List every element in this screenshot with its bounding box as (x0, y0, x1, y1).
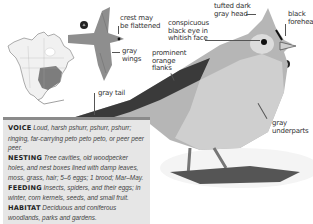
leader-line (118, 26, 119, 34)
label-crest: crest may be flattened (120, 15, 160, 30)
fact-key: NESTING (8, 154, 42, 162)
label-line: underparts (272, 128, 309, 136)
fact-length: LENGTH 6½in (16cm) (8, 223, 145, 224)
fact-habitat: HABITAT Deciduous and coniferous woodlan… (8, 203, 145, 223)
label-eye: conspicuous black eye in whitish face (168, 20, 209, 43)
fact-voice: VOICE Loud, harsh pshurr, pshurr, pshurr… (8, 123, 145, 153)
leader-line (94, 93, 95, 115)
label-gray-wings: gray wings (122, 48, 141, 63)
label-line: whitish face (168, 35, 209, 43)
label-flanks: prominent orange flanks (152, 50, 186, 73)
label-line: wings (122, 56, 141, 64)
species-facts-box: VOICE Loud, harsh pshurr, pshurr, pshurr… (3, 117, 150, 224)
leader-line (112, 52, 120, 53)
leader-line (205, 40, 260, 41)
label-line: flanks (152, 65, 186, 73)
leader-line (246, 14, 256, 15)
label-line: be flattened (120, 23, 160, 31)
fact-key: HABITAT (8, 204, 41, 212)
fact-key: VOICE (8, 124, 31, 132)
label-underparts: gray underparts (272, 120, 309, 135)
leader-line (285, 24, 286, 36)
label-line: forehead (288, 19, 313, 27)
fact-key: FEEDING (8, 184, 42, 192)
label-forehead: black forehead (288, 11, 313, 26)
label-tail: gray tail (98, 90, 125, 98)
label-head: tufted dark gray head (214, 3, 251, 18)
fact-nesting: NESTING Tree cavities, old woodpecker ho… (8, 153, 145, 183)
fact-feeding: FEEDING Insects, spiders, and their eggs… (8, 183, 145, 203)
